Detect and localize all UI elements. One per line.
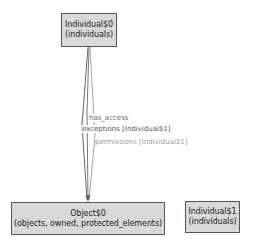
arrowhead-icon: [86, 195, 91, 202]
edge-has-access[interactable]: [87, 47, 89, 200]
edge-label-has-access: has_access: [89, 114, 128, 122]
node-subtitle: (objects, owned, protected_elements): [14, 219, 162, 229]
node-title: Individual$0: [65, 20, 113, 30]
edge-label-exceptions: exceptions [Individual$1]: [82, 125, 171, 133]
node-subtitle: (individuals): [189, 217, 237, 227]
node-title: Object$0: [70, 209, 105, 219]
edge-permissions[interactable]: [89, 47, 95, 200]
node-individual0[interactable]: Individual$0 (individuals): [61, 13, 117, 47]
node-individual1[interactable]: Individual$1 (individuals): [185, 201, 240, 233]
node-title: Individual$1: [189, 207, 237, 217]
node-subtitle: (individuals): [65, 30, 113, 40]
node-object0[interactable]: Object$0 (objects, owned, protected_elem…: [11, 202, 165, 235]
edge-label-permissions: permissions [Individual$1]: [95, 138, 188, 146]
diagram-canvas: Individual$0 (individuals) has_access ex…: [0, 0, 253, 248]
